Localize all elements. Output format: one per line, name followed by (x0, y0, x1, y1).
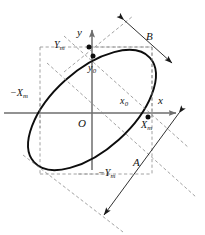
x-axis-label: x (158, 95, 163, 106)
y-max-label: Ym (54, 40, 64, 50)
y-axis-label: y (77, 27, 82, 38)
x-min-label: −Xm (10, 88, 28, 98)
minor-axis-label: B (146, 31, 153, 42)
construction-lines (23, 16, 196, 232)
ellipse-figure: y x O Ym y0 −Xm x0 Xm −Ym B A (0, 0, 205, 235)
marked-points (87, 45, 151, 120)
major-axis-label: A (133, 157, 140, 168)
point-y-max (87, 45, 92, 50)
extent-bounding-box (40, 47, 152, 174)
tangent-upper-left (64, 16, 133, 72)
x-intercept-label: x0 (120, 96, 128, 106)
origin-label: O (78, 118, 86, 129)
y-min-label: −Ym (98, 168, 115, 178)
point-y-intercept (91, 54, 96, 59)
figure-canvas (0, 0, 205, 235)
y-intercept-label: y0 (88, 63, 96, 73)
x-max-label: Xm (141, 120, 152, 130)
major-axis-guide-lower (47, 63, 196, 197)
